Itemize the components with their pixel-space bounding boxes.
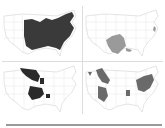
bottom-rule <box>6 124 162 126</box>
map-panel-d <box>84 62 164 114</box>
vertical-divider <box>82 6 83 114</box>
us-map-b <box>84 6 164 58</box>
map-panel-a <box>2 6 82 58</box>
map-panel-c <box>2 62 82 114</box>
us-map-c <box>2 62 82 114</box>
map-panel-b <box>84 6 164 58</box>
us-map-d <box>84 62 164 114</box>
horizontal-divider <box>2 61 163 62</box>
figure-caption <box>4 0 84 4</box>
us-map-a <box>2 6 82 58</box>
